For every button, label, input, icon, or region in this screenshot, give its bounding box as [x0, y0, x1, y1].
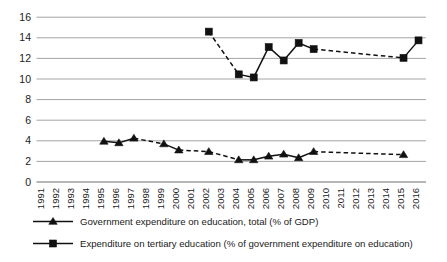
x-axis-tick-label: 2005 — [245, 188, 256, 209]
x-axis-tick-label: 2012 — [350, 188, 361, 209]
x-axis-tick-label: 1996 — [110, 188, 121, 209]
y-axis-tick-label: 10 — [19, 73, 31, 85]
line-chart: 0246810121416 19911992199319941995199619… — [0, 0, 447, 262]
data-point-marker-square — [50, 240, 57, 247]
x-axis-tick-label: 2013 — [365, 188, 376, 209]
data-point-marker-square — [295, 39, 302, 46]
x-axis-tick-label: 2004 — [230, 188, 241, 209]
data-point-marker-square — [265, 44, 272, 51]
x-axis-tick-label: 1994 — [80, 188, 91, 209]
data-point-marker-square — [415, 37, 422, 44]
series-line-segment-gap — [179, 150, 209, 152]
x-axis-tick-label: 1991 — [35, 188, 46, 209]
legend-label: Government expenditure on education, tot… — [80, 216, 318, 227]
series-line-segment-gap — [314, 49, 404, 58]
chart-legend: Government expenditure on education, tot… — [33, 216, 413, 249]
legend-label: Expenditure on tertiary education (% of … — [80, 238, 413, 249]
x-axis-tick-label: 2015 — [395, 188, 406, 209]
data-point-marker-triangle — [130, 134, 138, 141]
x-axis-tick-label: 1992 — [50, 188, 61, 209]
data-point-marker-square — [205, 28, 212, 35]
data-point-marker-square — [235, 71, 242, 78]
x-axis-tick-label: 1993 — [65, 188, 76, 209]
data-point-marker-square — [280, 57, 287, 64]
y-axis-tick-label: 14 — [19, 31, 31, 43]
x-axis-tick-label: 1998 — [140, 188, 151, 209]
y-axis-tick-label: 2 — [25, 155, 31, 167]
series-line-segment-gap — [209, 152, 239, 160]
y-axis-tick-label: 0 — [25, 176, 31, 188]
x-axis-tick-label: 2009 — [305, 188, 316, 209]
x-axis-tick-label: 1997 — [125, 188, 136, 209]
x-axis-tick-label: 1999 — [155, 188, 166, 209]
legend-item[interactable]: Expenditure on tertiary education (% of … — [33, 238, 413, 249]
x-axis-tick-label: 2001 — [185, 188, 196, 209]
y-axis-tick-label: 16 — [19, 11, 31, 23]
y-axis-tick-label: 8 — [25, 93, 31, 105]
data-point-marker-square — [400, 54, 407, 61]
y-axis-tick-label: 12 — [19, 52, 31, 64]
x-axis-tick-label: 2016 — [410, 188, 421, 209]
x-axis-tick-label: 2006 — [260, 188, 271, 209]
series-markers-group — [100, 28, 422, 163]
x-axis-tick-label: 2002 — [200, 188, 211, 209]
data-point-marker-triangle — [205, 148, 213, 155]
x-axis-tick-label: 2014 — [380, 188, 391, 209]
data-point-marker-square — [250, 74, 257, 81]
series-line-segment — [254, 47, 269, 77]
y-axis-tick-label: 4 — [25, 134, 31, 146]
y-axis-tick-label: 6 — [25, 114, 31, 126]
data-point-marker-square — [310, 46, 317, 53]
legend-item[interactable]: Government expenditure on education, tot… — [33, 216, 318, 227]
x-axis-tick-labels: 1991199219931994199519961997199819992000… — [35, 188, 421, 209]
data-point-marker-triangle — [279, 150, 287, 157]
series-line-segment-gap — [314, 152, 404, 155]
x-axis-tick-label: 2008 — [290, 188, 301, 209]
x-axis-tick-label: 2010 — [320, 188, 331, 209]
x-axis-tick-label: 1995 — [95, 188, 106, 209]
chart-canvas: 0246810121416 19911992199319941995199619… — [0, 0, 447, 262]
x-axis-tick-label: 2007 — [275, 188, 286, 209]
y-axis-tick-labels: 0246810121416 — [19, 11, 31, 188]
x-axis-tick-label: 2011 — [335, 188, 346, 208]
x-axis-tick-label: 2000 — [170, 188, 181, 209]
x-axis-tick-label: 2003 — [215, 188, 226, 209]
